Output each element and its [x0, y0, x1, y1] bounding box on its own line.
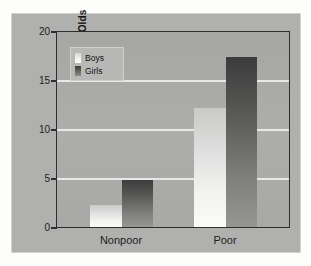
legend-label-girls: Girls	[85, 66, 102, 76]
bar-nonpoor-boys	[90, 205, 122, 227]
y-tick-label-15: 15	[28, 75, 50, 86]
y-tick-label-5: 5	[28, 173, 50, 184]
girls-swatch-icon	[75, 66, 81, 76]
y-tick-label-10: 10	[28, 124, 50, 135]
x-tick-label-poor: Poor	[180, 234, 270, 246]
y-tick-label-20: 20	[28, 26, 50, 37]
chart-figure: Percent of 7- to 18-Year-Olds 20 15 10 5…	[0, 0, 311, 266]
boys-swatch-icon	[75, 53, 81, 63]
legend-item-boys: Boys	[75, 51, 120, 64]
chart-panel: Percent of 7- to 18-Year-Olds 20 15 10 5…	[12, 14, 300, 252]
bar-poor-boys	[194, 108, 226, 227]
legend-item-girls: Girls	[75, 64, 120, 77]
y-tick-label-0: 0	[28, 222, 50, 233]
bar-nonpoor-girls	[122, 180, 153, 227]
x-tick-label-nonpoor: Nonpoor	[76, 234, 166, 246]
chart-legend: Boys Girls	[70, 47, 124, 81]
bar-poor-girls	[226, 57, 257, 227]
legend-label-boys: Boys	[85, 53, 104, 63]
